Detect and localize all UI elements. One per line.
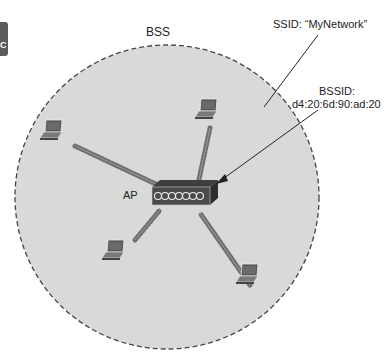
access-point — [152, 180, 218, 205]
bssid-title: BSSID: — [319, 85, 355, 97]
ssid-leader-line — [264, 35, 318, 107]
bssid-value: d4:20:6d:90:ad:20 — [292, 98, 381, 110]
ssid-label: SSID: “MyNetwork” — [273, 18, 367, 30]
ap-label: AP — [123, 189, 138, 201]
bss-label: BSS — [146, 25, 170, 39]
bss-diagram — [0, 0, 391, 360]
